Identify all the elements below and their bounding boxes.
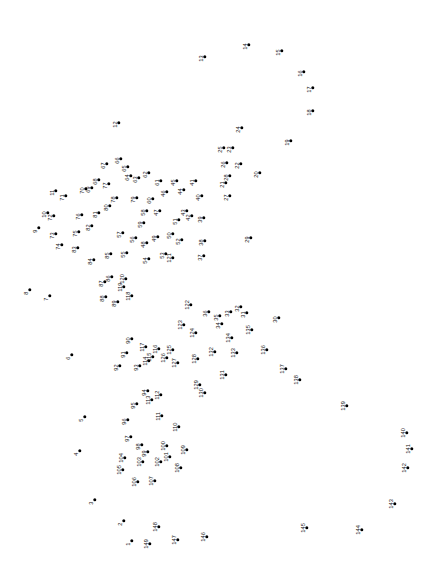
dot-label-82: 82 (86, 224, 92, 230)
dot-label-37: 37 (198, 254, 204, 260)
dot-label-55: 55 (121, 251, 127, 257)
dot-label-21: 21 (220, 181, 226, 187)
dot-label-44: 44 (178, 188, 184, 194)
dot-label-147: 147 (172, 535, 178, 545)
dot-label-41: 41 (190, 179, 196, 185)
dot-label-136: 136 (261, 345, 267, 355)
dot-label-8: 8 (24, 291, 30, 294)
dot-label-103: 103 (137, 457, 143, 467)
dot-label-108: 108 (175, 463, 181, 473)
dot-label-30: 30 (273, 316, 279, 322)
dot-label-28: 28 (224, 174, 230, 180)
dot-label-98: 98 (136, 443, 142, 449)
dot-label-122: 122 (185, 300, 191, 310)
dot-label-146: 146 (201, 532, 207, 542)
connect-the-dots-canvas: 1234567891011121314151617181920212223242… (0, 0, 430, 572)
dot-label-36: 36 (203, 310, 209, 316)
dot-label-63: 63 (133, 176, 139, 182)
dot-label-132: 132 (209, 347, 215, 357)
dot-label-81: 81 (93, 211, 99, 217)
dot-label-70: 70 (80, 187, 86, 193)
dot-label-75: 75 (73, 230, 79, 236)
dot-label-99: 99 (142, 450, 148, 456)
dot-label-113: 113 (146, 395, 152, 404)
dot-label-1: 1 (126, 542, 132, 545)
dot-label-91: 91 (121, 351, 127, 357)
dot-label-78: 78 (111, 196, 117, 202)
dot-label-60: 60 (147, 197, 153, 203)
dot-label-116: 116 (153, 344, 159, 353)
dot-label-29: 29 (245, 236, 251, 242)
dot-label-26: 26 (221, 161, 227, 167)
dot-label-5: 5 (79, 418, 85, 421)
dot-label-109: 109 (181, 445, 187, 455)
dot-label-88: 88 (100, 295, 106, 301)
dot-label-77: 77 (103, 182, 109, 188)
dot-label-27: 27 (224, 194, 230, 200)
dot-label-97: 97 (125, 435, 131, 441)
dot-label-25: 25 (218, 146, 224, 152)
dot-label-58: 58 (141, 209, 147, 215)
dot-label-47: 47 (154, 209, 160, 215)
dot-label-68: 68 (93, 178, 99, 184)
dot-label-2: 2 (118, 522, 124, 525)
dot-label-54: 54 (143, 257, 149, 263)
dot-label-118: 118 (126, 291, 132, 300)
dot-label-13: 13 (199, 55, 205, 61)
dot-label-43: 43 (181, 209, 187, 215)
dot-label-143: 143 (389, 499, 395, 509)
dot-label-86: 86 (106, 275, 112, 281)
dot-label-79: 79 (131, 196, 137, 202)
dot-label-17: 17 (307, 86, 313, 92)
dot-label-112: 112 (155, 390, 161, 399)
dot-label-74: 74 (56, 243, 62, 249)
dot-label-45: 45 (171, 179, 177, 185)
dot-label-102: 102 (155, 457, 161, 467)
dot-label-120: 120 (120, 274, 126, 284)
dot-label-105: 105 (117, 465, 123, 475)
dot-label-145: 145 (301, 523, 307, 533)
dot-label-137: 137 (280, 364, 286, 374)
dot-label-73: 73 (50, 232, 56, 238)
dot-label-14: 14 (243, 43, 249, 49)
dot-label-101: 101 (164, 452, 170, 462)
dot-label-121: 121 (167, 253, 173, 263)
dot-label-107: 107 (149, 476, 155, 486)
dot-label-6: 6 (66, 356, 72, 359)
dot-label-12: 12 (113, 121, 119, 127)
dot-label-85: 85 (105, 252, 111, 258)
dot-label-94: 94 (142, 389, 148, 395)
dot-label-9: 9 (33, 229, 39, 232)
dot-label-4: 4 (74, 452, 80, 455)
dot-label-57: 57 (117, 231, 123, 237)
dot-label-144: 144 (356, 525, 362, 535)
dot-label-141: 141 (406, 444, 412, 454)
dot-label-35: 35 (214, 314, 220, 320)
dot-label-3: 3 (89, 501, 95, 504)
dot-label-11: 11 (50, 189, 56, 195)
dot-label-142: 142 (402, 463, 408, 473)
dot-label-40: 40 (196, 194, 202, 200)
dot-label-134: 134 (226, 333, 232, 343)
dot-label-15: 15 (276, 49, 282, 55)
dot-label-19: 19 (285, 139, 291, 145)
dot-label-93: 93 (134, 364, 140, 370)
dot-label-135: 135 (246, 325, 252, 335)
dot-label-38: 38 (199, 239, 205, 245)
dot-label-51: 51 (173, 218, 179, 224)
dot-label-22: 22 (235, 162, 241, 168)
dot-label-84: 84 (88, 258, 94, 264)
dot-label-111: 111 (156, 411, 162, 420)
dot-label-96: 96 (122, 418, 128, 424)
dot-label-87: 87 (99, 280, 105, 286)
dot-label-31: 31 (241, 311, 247, 317)
dot-label-53: 53 (160, 252, 166, 258)
dot-label-66: 66 (115, 157, 121, 163)
dot-label-110: 110 (173, 422, 179, 431)
dot-label-125: 125 (167, 345, 173, 355)
dot-label-89: 89 (112, 300, 118, 306)
dot-label-42: 42 (186, 214, 192, 220)
dot-label-83: 83 (72, 246, 78, 252)
dot-label-140: 140 (401, 428, 407, 438)
dot-label-92: 92 (114, 364, 120, 370)
